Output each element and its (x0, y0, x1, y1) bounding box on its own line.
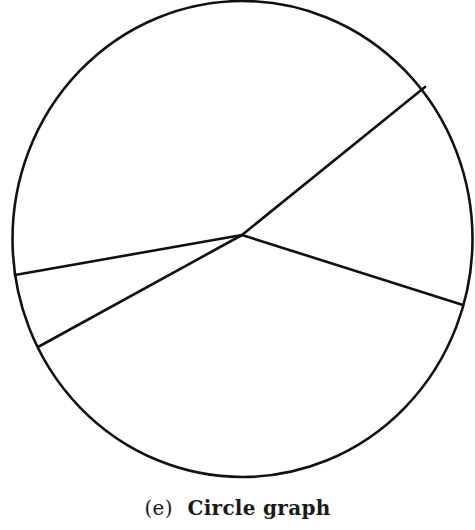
caption-label: (e) (144, 496, 172, 520)
caption-title: Circle graph (187, 496, 330, 520)
spoke-upper-right (242, 87, 425, 235)
figure-caption: (e) Circle graph (0, 496, 475, 520)
circle-graph (0, 0, 475, 490)
spoke-lower-right (242, 235, 463, 305)
circle-outline (13, 1, 473, 477)
